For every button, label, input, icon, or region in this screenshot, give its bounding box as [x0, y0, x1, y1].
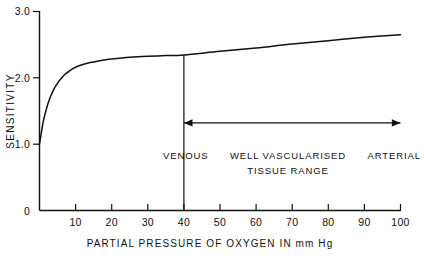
arrowhead-right	[392, 119, 401, 126]
y-axis-title: SENSITIVITY	[5, 73, 16, 148]
x-tick-label-60: 60	[250, 216, 262, 228]
x-tick-label-10: 10	[69, 216, 81, 228]
x-tick-label-70: 70	[286, 216, 298, 228]
x-axis-title: PARTIAL PRESSURE OF OXYGEN IN mm Hg	[87, 238, 334, 249]
y-tick-label-0: 0	[24, 205, 30, 217]
x-axis-tick-labels: 10 20 30 40 50 60 70 80 90 100	[69, 216, 409, 228]
sensitivity-curve	[40, 35, 401, 144]
y-tick-label-2: 2.0	[15, 72, 30, 84]
y-tick-label-3: 3.0	[15, 5, 30, 17]
x-tick-label-40: 40	[178, 216, 190, 228]
range-annotation-labels: VENOUS WELL VASCULARISED TISSUE RANGE AR…	[163, 150, 421, 176]
tissue-range-arrow	[184, 119, 401, 126]
x-tick-label-100: 100	[391, 216, 409, 228]
oxygen-sensitivity-chart: 3.0 2.0 1.0 0 SENSITIVITY 10 20 30 40 50	[0, 0, 424, 258]
axes	[40, 11, 401, 211]
x-tick-label-30: 30	[142, 216, 154, 228]
tissue-range-label: TISSUE RANGE	[247, 165, 329, 176]
x-tick-label-20: 20	[106, 216, 118, 228]
x-tick-label-80: 80	[322, 216, 334, 228]
well-vascularised-label: WELL VASCULARISED	[230, 150, 346, 161]
x-tick-label-50: 50	[214, 216, 226, 228]
x-tick-label-90: 90	[358, 216, 370, 228]
venous-label: VENOUS	[163, 150, 209, 161]
arrowhead-left	[184, 119, 193, 126]
y-axis-tick-labels: 3.0 2.0 1.0 0	[15, 5, 30, 217]
chart-canvas: 3.0 2.0 1.0 0 SENSITIVITY 10 20 30 40 50	[0, 0, 424, 258]
arterial-label: ARTERIAL	[368, 150, 422, 161]
y-tick-label-1: 1.0	[15, 138, 30, 150]
